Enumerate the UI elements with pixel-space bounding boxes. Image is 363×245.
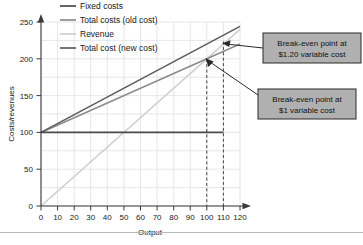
legend-label-fixed-costs: Fixed costs: [80, 1, 123, 11]
x-axis-ticks: [41, 206, 240, 211]
x-tick-label-100: 100: [200, 213, 214, 222]
y-tick-label-50: 50: [24, 165, 33, 174]
break-even-chart: 0 50 100 150 200 250 0 10 20 30 40 50 60…: [0, 0, 363, 245]
x-tick-label-70: 70: [153, 213, 162, 222]
x-tick-label-50: 50: [119, 213, 128, 222]
x-axis-arrow: [243, 203, 252, 209]
callout-bottom-line2: $1 variable cost: [279, 106, 336, 115]
callout-top: Break-even point at $1.20 variable cost: [263, 33, 361, 63]
legend-label-revenue: Revenue: [80, 29, 114, 39]
x-tick-label-80: 80: [169, 213, 178, 222]
y-tick-label-0: 0: [29, 202, 34, 211]
callout-top-line2: $1.20 variable cost: [278, 50, 346, 59]
x-tick-label-10: 10: [53, 213, 62, 222]
x-tick-label-20: 20: [70, 213, 79, 222]
y-axis-tick-labels: 0 50 100 150 200 250: [20, 18, 34, 211]
bottom-divider: [0, 232, 363, 233]
callout-bottom-line1: Break-even point at: [272, 95, 342, 104]
y-axis-arrow: [38, 14, 44, 23]
y-tick-label-100: 100: [20, 128, 34, 137]
x-tick-label-110: 110: [217, 213, 230, 222]
chart-canvas: 0 50 100 150 200 250 0 10 20 30 40 50 60…: [0, 0, 363, 245]
x-tick-label-90: 90: [186, 213, 195, 222]
chart-legend: Fixed costs Total costs (old cost) Reven…: [60, 1, 158, 53]
callout-leader-bottom: [210, 62, 258, 95]
y-axis-title: Costs/revenues: [7, 86, 16, 142]
y-tick-label-200: 200: [20, 55, 34, 64]
callout-bottom: Break-even point at $1 variable cost: [258, 89, 356, 119]
x-axis-tick-labels: 0 10 20 30 40 50 60 70 80 90 100 110 120: [39, 213, 247, 222]
legend-label-total-costs-old: Total costs (old cost): [80, 15, 158, 25]
y-axis-ticks: [37, 22, 42, 206]
y-tick-label-250: 250: [20, 18, 34, 27]
y-tick-label-150: 150: [20, 92, 34, 101]
x-tick-label-30: 30: [86, 213, 95, 222]
x-tick-label-40: 40: [103, 213, 112, 222]
legend-label-total-cost-new: Total cost (new cost): [80, 43, 158, 53]
callout-top-line1: Break-even point at: [277, 39, 347, 48]
x-tick-label-120: 120: [233, 213, 247, 222]
x-tick-label-0: 0: [39, 213, 44, 222]
x-tick-label-60: 60: [136, 213, 145, 222]
